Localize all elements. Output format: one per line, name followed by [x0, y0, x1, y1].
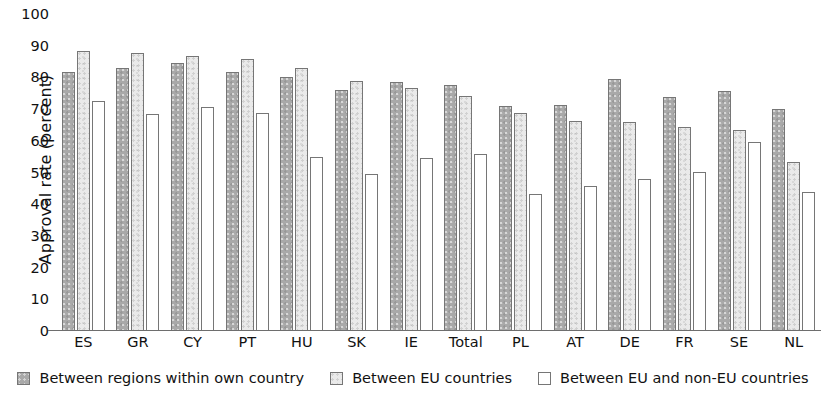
legend-swatch-icon: [17, 372, 30, 385]
bar-group: [384, 14, 439, 330]
x-tick-label: ES: [56, 334, 111, 350]
bar[interactable]: [256, 113, 269, 330]
legend-label: Between regions within own country: [39, 370, 304, 386]
bar-group: [438, 14, 493, 330]
bar[interactable]: [772, 109, 785, 330]
bar[interactable]: [748, 142, 761, 330]
legend-label: Between EU and non-EU countries: [560, 370, 809, 386]
legend-item[interactable]: Between regions within own country: [17, 370, 304, 386]
bar[interactable]: [444, 85, 457, 330]
legend-swatch-icon: [538, 372, 551, 385]
x-axis-line: [48, 330, 821, 331]
bar-group: [548, 14, 603, 330]
bar[interactable]: [459, 96, 472, 330]
x-tick-label: SE: [712, 334, 767, 350]
bar[interactable]: [77, 51, 90, 330]
bar-group: [766, 14, 821, 330]
bar[interactable]: [62, 72, 75, 330]
bar-groups: [56, 14, 821, 330]
x-tick-label: HU: [275, 334, 330, 350]
x-tick-label: PL: [493, 334, 548, 350]
bar-group: [275, 14, 330, 330]
bar[interactable]: [569, 121, 582, 330]
bar[interactable]: [638, 179, 651, 330]
x-axis-labels: ESGRCYPTHUSKIETotalPLATDEFRSENL: [56, 334, 821, 350]
y-tick-label: 30: [31, 228, 49, 244]
x-tick-label: GR: [111, 334, 166, 350]
bar-group: [657, 14, 712, 330]
bar[interactable]: [116, 68, 129, 330]
bar-chart: Approval rate (percent) 1009080706050403…: [0, 0, 826, 399]
bar[interactable]: [186, 56, 199, 330]
bar[interactable]: [802, 192, 815, 330]
x-tick-label: FR: [657, 334, 712, 350]
y-tick-label: 70: [31, 101, 49, 117]
y-tick-label: 80: [31, 69, 49, 85]
y-tick-label: 10: [31, 291, 49, 307]
x-tick-label: PT: [220, 334, 275, 350]
bar[interactable]: [554, 105, 567, 330]
bar-group: [56, 14, 111, 330]
bar-group: [712, 14, 767, 330]
bar[interactable]: [241, 59, 254, 330]
bar-group: [111, 14, 166, 330]
bar[interactable]: [171, 63, 184, 330]
bar-group: [165, 14, 220, 330]
legend-label: Between EU countries: [352, 370, 512, 386]
bar-group: [493, 14, 548, 330]
bar[interactable]: [608, 79, 621, 330]
bar[interactable]: [131, 53, 144, 330]
plot-area: 1009080706050403020100: [56, 14, 821, 331]
bar[interactable]: [420, 158, 433, 330]
y-tick-label: 0: [40, 323, 49, 339]
bar[interactable]: [390, 82, 403, 330]
bar[interactable]: [499, 106, 512, 330]
bar[interactable]: [335, 90, 348, 330]
bar[interactable]: [474, 154, 487, 330]
bar[interactable]: [295, 68, 308, 330]
bar[interactable]: [693, 172, 706, 330]
bar[interactable]: [678, 127, 691, 330]
bar[interactable]: [514, 113, 527, 330]
bar[interactable]: [787, 162, 800, 330]
bar[interactable]: [529, 194, 542, 331]
bar[interactable]: [663, 97, 676, 330]
bar[interactable]: [623, 122, 636, 330]
x-tick-label: AT: [548, 334, 603, 350]
chart-legend: Between regions within own countryBetwee…: [0, 370, 826, 386]
x-tick-label: DE: [602, 334, 657, 350]
x-tick-label: SK: [329, 334, 384, 350]
bar[interactable]: [718, 91, 731, 330]
y-tick-label: 50: [31, 165, 49, 181]
y-tick-label: 60: [31, 133, 49, 149]
bar[interactable]: [350, 81, 363, 330]
bar-group: [329, 14, 384, 330]
y-tick-label: 20: [31, 260, 49, 276]
bar[interactable]: [310, 157, 323, 330]
legend-item[interactable]: Between EU and non-EU countries: [538, 370, 809, 386]
x-tick-label: CY: [165, 334, 220, 350]
x-tick-label: NL: [766, 334, 821, 350]
bar[interactable]: [280, 77, 293, 330]
bar-group: [602, 14, 657, 330]
x-tick-label: IE: [384, 334, 439, 350]
y-tick-label: 90: [31, 38, 49, 54]
bar[interactable]: [201, 107, 214, 330]
legend-swatch-icon: [330, 372, 343, 385]
bar[interactable]: [365, 174, 378, 330]
bar-group: [220, 14, 275, 330]
bar[interactable]: [405, 88, 418, 330]
bar[interactable]: [146, 114, 159, 330]
bar[interactable]: [584, 186, 597, 330]
bar[interactable]: [92, 101, 105, 330]
legend-item[interactable]: Between EU countries: [330, 370, 512, 386]
y-tick-label: 40: [31, 196, 49, 212]
bar[interactable]: [226, 72, 239, 330]
y-tick-label: 100: [21, 6, 49, 22]
x-tick-label: Total: [438, 334, 493, 350]
bar[interactable]: [733, 130, 746, 330]
